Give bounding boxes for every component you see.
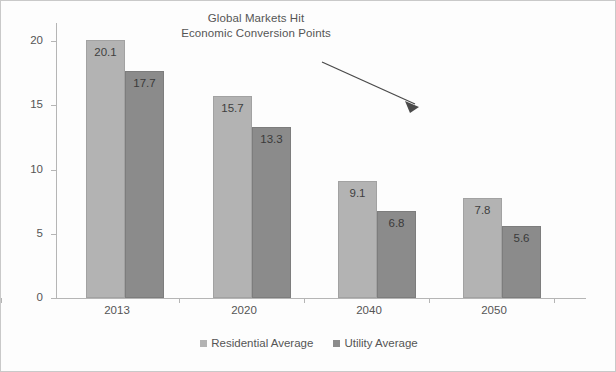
x-axis-label-2020: 2020 <box>204 304 284 316</box>
y-tick-5 <box>51 234 56 235</box>
bar-value-residential-2050: 7.8 <box>464 204 501 216</box>
bar-chart-figure: Global Markets Hit Economic Conversion P… <box>0 0 616 372</box>
bar-value-utility-2020: 13.3 <box>253 133 290 145</box>
x-tick-1 <box>179 298 180 303</box>
bar-value-utility-2050: 5.6 <box>503 232 540 244</box>
x-axis-label-2013: 2013 <box>77 304 157 316</box>
legend-item-utility-average[interactable]: Utility Average <box>333 337 417 349</box>
x-axis-label-2040: 2040 <box>329 304 409 316</box>
bar-value-residential-2040: 9.1 <box>339 187 376 199</box>
y-tick-10 <box>51 170 56 171</box>
bar-utility-2020[interactable]: 13.3 <box>252 127 291 298</box>
y-tick-20 <box>51 41 56 42</box>
y-tick-0 <box>51 298 56 299</box>
x-tick-2b <box>304 298 305 303</box>
trend-arrow-icon <box>311 51 436 121</box>
x-tick-4 <box>554 298 555 303</box>
bar-residential-2020[interactable]: 15.7 <box>213 96 252 298</box>
x-axis-line <box>56 298 586 299</box>
bar-utility-2013[interactable]: 17.7 <box>125 71 164 298</box>
x-tick-2 <box>1 298 2 303</box>
bar-value-utility-2040: 6.8 <box>378 217 415 229</box>
bar-utility-2040[interactable]: 6.8 <box>377 211 416 298</box>
bar-value-residential-2020: 15.7 <box>214 102 251 114</box>
y-axis-label-0: 0 <box>9 291 43 303</box>
legend-label-utility: Utility Average <box>344 337 417 349</box>
y-axis-label-10: 10 <box>9 163 43 175</box>
bar-residential-2050[interactable]: 7.8 <box>463 198 502 298</box>
x-axis-label-2050: 2050 <box>454 304 534 316</box>
x-tick-3 <box>429 298 430 303</box>
legend-swatch-residential <box>200 340 207 347</box>
legend-item-residential-average[interactable]: Residential Average <box>200 337 313 349</box>
y-axis-label-15: 15 <box>9 98 43 110</box>
bar-residential-2040[interactable]: 9.1 <box>338 181 377 298</box>
bar-utility-2050[interactable]: 5.6 <box>502 226 541 298</box>
bar-value-utility-2013: 17.7 <box>126 77 163 89</box>
bar-value-residential-2013: 20.1 <box>87 46 124 58</box>
y-axis-label-5: 5 <box>9 227 43 239</box>
plot-area: 20 15 10 5 0 2013 2020 2040 2050 20.1 17… <box>1 1 616 372</box>
legend-swatch-utility <box>333 340 340 347</box>
y-axis-line <box>56 23 57 299</box>
bar-residential-2013[interactable]: 20.1 <box>86 40 125 298</box>
y-tick-15 <box>51 105 56 106</box>
y-axis-label-20: 20 <box>9 34 43 46</box>
legend-label-residential: Residential Average <box>211 337 313 349</box>
chart-legend: Residential Average Utility Average <box>1 337 616 349</box>
